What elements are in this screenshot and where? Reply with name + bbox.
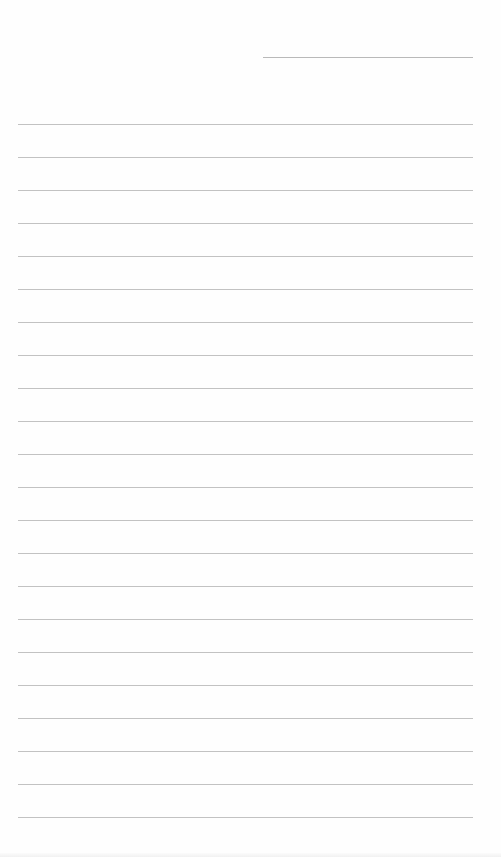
page-bottom-edge bbox=[0, 853, 501, 857]
ruled-line bbox=[18, 619, 473, 620]
ruled-line bbox=[18, 586, 473, 587]
ruled-line bbox=[18, 817, 473, 818]
ruled-line bbox=[18, 685, 473, 686]
lined-paper-page bbox=[0, 0, 501, 857]
ruled-line bbox=[18, 124, 473, 125]
ruled-line bbox=[18, 157, 473, 158]
ruled-line bbox=[18, 520, 473, 521]
ruled-line bbox=[18, 751, 473, 752]
ruled-line bbox=[18, 190, 473, 191]
ruled-line bbox=[18, 256, 473, 257]
ruled-line bbox=[18, 322, 473, 323]
ruled-line bbox=[18, 652, 473, 653]
ruled-line bbox=[18, 289, 473, 290]
ruled-line bbox=[18, 355, 473, 356]
ruled-line bbox=[18, 421, 473, 422]
ruled-line bbox=[18, 718, 473, 719]
ruled-line bbox=[18, 784, 473, 785]
ruled-line bbox=[18, 388, 473, 389]
ruled-line bbox=[18, 487, 473, 488]
header-date-line bbox=[263, 57, 473, 58]
ruled-line bbox=[18, 223, 473, 224]
ruled-line bbox=[18, 454, 473, 455]
ruled-line bbox=[18, 553, 473, 554]
